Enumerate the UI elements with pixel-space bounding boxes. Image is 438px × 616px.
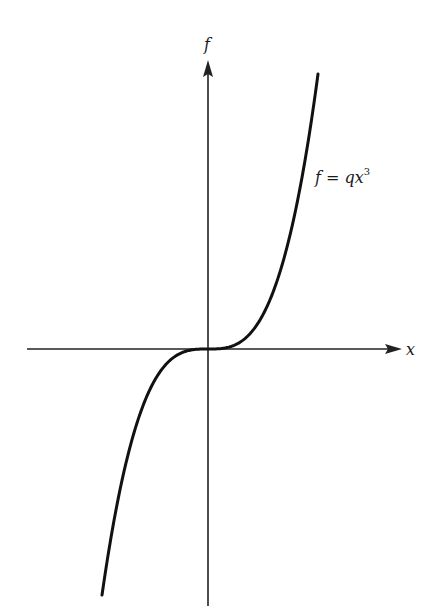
curve-label-exponent: 3 (364, 166, 370, 177)
curve-label-main: f = qx (314, 168, 364, 187)
cubic-curve (102, 74, 318, 595)
x-axis-label: x (406, 340, 415, 359)
y-axis-label: f (203, 35, 213, 54)
cubic-function-plot: x f f = qx3 (0, 0, 438, 616)
curve-label: f = qx3 (314, 166, 370, 187)
